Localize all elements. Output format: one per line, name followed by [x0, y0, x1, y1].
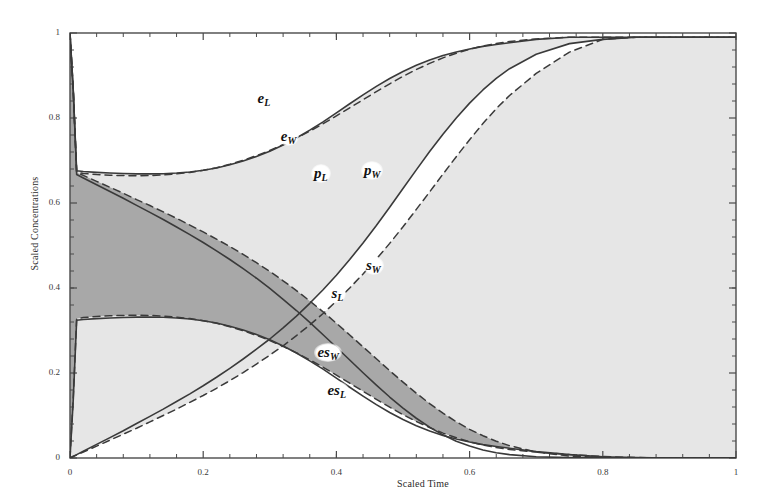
plot-canvas: [0, 0, 765, 504]
y-tick-label: 0.8: [26, 112, 60, 122]
y-tick-label: 0.2: [26, 367, 60, 377]
y-tick-label: 0: [26, 452, 60, 462]
p-W-label: pW: [361, 161, 383, 180]
x-tick-label: 0.2: [183, 467, 223, 477]
p-L-label: pL: [311, 164, 331, 183]
x-tick-label: 0: [50, 467, 90, 477]
es-L-label: esL: [324, 381, 349, 400]
e-L-label: eL: [254, 89, 273, 108]
shaded-regions: [70, 33, 736, 458]
s-L-label: sL: [328, 284, 346, 303]
s-W-label: sW: [363, 256, 384, 275]
es-W-label: esW: [314, 343, 341, 362]
y-tick-label: 1: [26, 27, 60, 37]
y-tick-label: 0.4: [26, 282, 60, 292]
figure-chart: Scaled Concentrations Scaled Time 00.20.…: [0, 0, 765, 504]
x-tick-label: 0.6: [450, 467, 490, 477]
y-tick-label: 0.6: [26, 197, 60, 207]
x-tick-label: 0.8: [583, 467, 623, 477]
x-axis-label: Scaled Time: [363, 478, 483, 489]
e-W-label: eW: [278, 127, 300, 146]
x-tick-label: 0.4: [316, 467, 356, 477]
x-tick-label: 1: [716, 467, 756, 477]
y-axis-label: Scaled Concentrations: [29, 144, 40, 304]
